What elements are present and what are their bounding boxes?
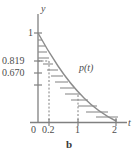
y-tick-label-0670: 0.670 — [2, 68, 25, 78]
exponential-decay-plot — [0, 0, 140, 159]
curve-pt — [38, 33, 116, 121]
x-axis-label: t — [128, 118, 131, 128]
y-tick-label-1: 1 — [28, 28, 33, 38]
figure-container: 1 0.819 0.670 0 0.2 1 2 y t p(t) b — [0, 0, 140, 159]
curve-label-pt: p(t) — [79, 63, 93, 73]
x-tick-label-02: 0.2 — [42, 125, 55, 135]
y-axis-label: y — [41, 4, 45, 14]
x-tick-label-1: 1 — [75, 125, 80, 135]
x-tick-label-2: 2 — [112, 125, 117, 135]
figure-caption: b — [66, 139, 72, 150]
hatch-marks — [38, 40, 118, 117]
x-tick-label-0: 0 — [31, 125, 36, 135]
y-tick-label-0819: 0.819 — [2, 56, 25, 66]
